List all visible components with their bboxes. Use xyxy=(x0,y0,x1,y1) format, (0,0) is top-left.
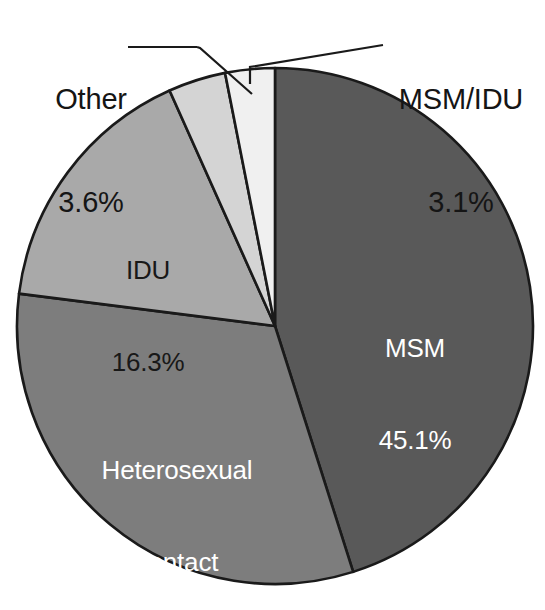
slice-label-idu-value: 16.3% xyxy=(68,347,228,378)
slice-label-idu-name: IDU xyxy=(68,255,228,286)
slice-label-heterosexual-contact-name-1: Heterosexual xyxy=(74,455,280,486)
slice-label-msm: MSM 45.1% xyxy=(336,272,494,517)
slice-label-msm-idu-value: 3.1% xyxy=(381,185,541,219)
slice-label-heterosexual-contact-name-2: contact xyxy=(74,547,280,578)
slice-label-msm-value: 45.1% xyxy=(336,425,494,456)
pie-chart: Other 3.6% MSM/IDU 3.1% IDU 16.3% MSM 45… xyxy=(0,0,545,610)
slice-label-msm-idu-name: MSM/IDU xyxy=(381,82,541,116)
slice-label-heterosexual-contact: Heterosexual contact 31.9% xyxy=(74,394,280,610)
slice-label-msm-idu: MSM/IDU 3.1% xyxy=(381,14,541,288)
slice-label-msm-name: MSM xyxy=(336,333,494,364)
slice-label-other-name: Other xyxy=(16,82,166,116)
